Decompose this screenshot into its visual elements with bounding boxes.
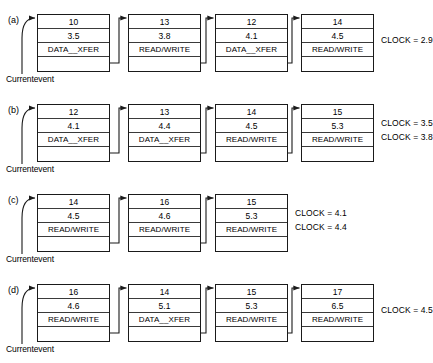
event-type: READ/WRITE — [302, 313, 373, 327]
node-link-arrow — [201, 288, 214, 333]
event-time: 3.8 — [129, 29, 200, 43]
event-type: DATA__XFER — [38, 43, 109, 57]
event-node: 155.3READ/WRITE — [301, 104, 374, 162]
event-time: 4.1 — [38, 119, 109, 133]
clock-label: CLOCK = 4.1 — [295, 208, 347, 218]
event-link-pointer — [38, 57, 109, 71]
event-link-pointer — [216, 237, 287, 251]
event-time: 4.4 — [129, 119, 200, 133]
event-type: READ/WRITE — [129, 43, 200, 57]
node-link-arrow — [110, 108, 127, 153]
event-node: 134.4DATA__XFER — [128, 104, 201, 162]
event-number: 15 — [302, 105, 373, 119]
event-link-pointer — [216, 147, 287, 161]
event-time: 4.5 — [38, 209, 109, 223]
event-type: DATA__XFER — [129, 313, 200, 327]
node-link-arrow — [288, 18, 300, 63]
event-type: READ/WRITE — [216, 223, 287, 237]
event-type: READ/WRITE — [302, 43, 373, 57]
current-event-label: Currentevent — [6, 254, 54, 264]
event-time: 5.3 — [216, 209, 287, 223]
event-node: 164.6READ/WRITE — [37, 284, 110, 342]
event-number: 12 — [216, 15, 287, 29]
event-node: 124.1DATA__XFER — [215, 14, 288, 72]
event-node: 144.5READ/WRITE — [215, 104, 288, 162]
event-node: 155.3READ/WRITE — [215, 284, 288, 342]
event-time: 4.6 — [38, 299, 109, 313]
event-node: 124.1DATA__XFER — [37, 104, 110, 162]
event-number: 15 — [216, 285, 287, 299]
event-node: 145.1DATA__XFER — [128, 284, 201, 342]
event-time: 4.1 — [216, 29, 287, 43]
current-event-label: Currentevent — [6, 164, 54, 174]
event-type: DATA__XFER — [216, 43, 287, 57]
node-link-arrow — [201, 108, 214, 153]
event-node: 144.5READ/WRITE — [301, 14, 374, 72]
event-time: 4.6 — [129, 209, 200, 223]
event-time: 5.1 — [129, 299, 200, 313]
row-label-c: (c) — [8, 195, 19, 205]
event-time: 5.3 — [216, 299, 287, 313]
event-type: READ/WRITE — [129, 223, 200, 237]
row-label-b: (b) — [8, 105, 19, 115]
event-time: 6.5 — [302, 299, 373, 313]
event-link-pointer — [129, 57, 200, 71]
event-link-pointer — [38, 327, 109, 341]
current-event-pointer — [22, 198, 35, 254]
event-node: 103.5DATA__XFER — [37, 14, 110, 72]
event-number: 12 — [38, 105, 109, 119]
event-link-pointer — [129, 327, 200, 341]
event-type: READ/WRITE — [38, 313, 109, 327]
event-number: 13 — [129, 15, 200, 29]
event-time: 3.5 — [38, 29, 109, 43]
event-type: READ/WRITE — [38, 223, 109, 237]
clock-label: CLOCK = 3.8 — [381, 132, 433, 142]
event-number: 14 — [129, 285, 200, 299]
current-event-label: Currentevent — [6, 74, 54, 84]
event-time: 4.5 — [216, 119, 287, 133]
event-link-pointer — [216, 327, 287, 341]
node-link-arrow — [110, 18, 127, 63]
event-link-pointer — [129, 147, 200, 161]
event-node: 155.3READ/WRITE — [215, 194, 288, 252]
current-event-label: Currentevent — [6, 344, 54, 354]
event-number: 16 — [38, 285, 109, 299]
node-link-arrow — [201, 18, 214, 63]
event-node: 164.6READ/WRITE — [128, 194, 201, 252]
event-time: 4.5 — [302, 29, 373, 43]
event-type: DATA__XFER — [38, 133, 109, 147]
event-number: 10 — [38, 15, 109, 29]
node-link-arrow — [110, 198, 127, 243]
event-type: READ/WRITE — [302, 133, 373, 147]
clock-label: CLOCK = 4.4 — [295, 222, 347, 232]
event-time: 5.3 — [302, 119, 373, 133]
event-node: 133.8READ/WRITE — [128, 14, 201, 72]
event-link-pointer — [302, 147, 373, 161]
node-link-arrow — [110, 288, 127, 333]
event-type: READ/WRITE — [216, 313, 287, 327]
node-link-arrow — [201, 198, 214, 243]
node-link-arrow — [288, 108, 300, 153]
event-link-pointer — [302, 327, 373, 341]
event-number: 14 — [302, 15, 373, 29]
event-link-pointer — [216, 57, 287, 71]
clock-label: CLOCK = 4.5 — [381, 305, 433, 315]
event-number: 16 — [129, 195, 200, 209]
event-node: 144.5READ/WRITE — [37, 194, 110, 252]
event-link-pointer — [38, 237, 109, 251]
event-number: 15 — [216, 195, 287, 209]
event-number: 13 — [129, 105, 200, 119]
event-type: DATA__XFER — [129, 133, 200, 147]
node-link-arrow — [288, 288, 300, 333]
event-link-pointer — [302, 57, 373, 71]
row-label-d: (d) — [8, 285, 19, 295]
current-event-pointer — [22, 288, 35, 344]
event-number: 17 — [302, 285, 373, 299]
event-type: READ/WRITE — [216, 133, 287, 147]
clock-label: CLOCK = 2.9 — [381, 35, 433, 45]
event-link-pointer — [129, 237, 200, 251]
clock-label: CLOCK = 3.5 — [381, 118, 433, 128]
event-number: 14 — [38, 195, 109, 209]
event-node: 176.5READ/WRITE — [301, 284, 374, 342]
